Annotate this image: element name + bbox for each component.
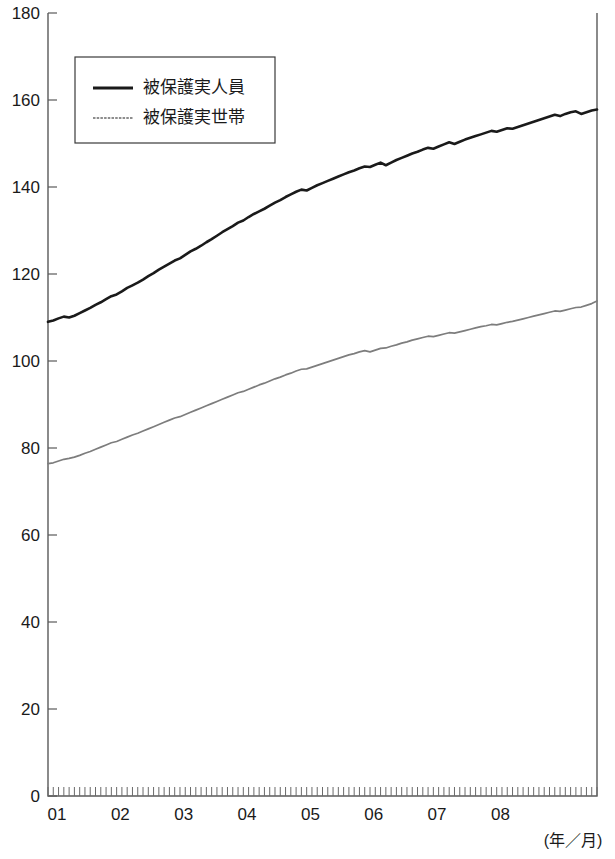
x-tick-label: 01 xyxy=(48,805,67,824)
x-tick-label: 07 xyxy=(428,805,447,824)
y-tick-label: 140 xyxy=(12,178,40,197)
chart-container: 020406080100120140160180 010203040506070… xyxy=(0,0,615,859)
x-tick-label: 05 xyxy=(301,805,320,824)
x-axis-minor-ticks xyxy=(48,787,597,796)
x-tick-label: 04 xyxy=(238,805,257,824)
x-tick-label: 06 xyxy=(364,805,383,824)
y-tick-label: 20 xyxy=(21,700,40,719)
y-tick-label: 160 xyxy=(12,91,40,110)
series-line-secondary xyxy=(48,301,597,464)
legend-label-primary: 被保護実人員 xyxy=(143,78,245,97)
legend-label-secondary: 被保護実世帯 xyxy=(143,108,245,127)
legend-box xyxy=(75,57,275,143)
x-tick-label: 03 xyxy=(174,805,193,824)
series-layer xyxy=(48,110,597,464)
y-axis-tick-labels: 020406080100120140160180 xyxy=(12,4,40,806)
x-tick-label: 02 xyxy=(111,805,130,824)
y-tick-label: 0 xyxy=(31,787,40,806)
y-tick-label: 40 xyxy=(21,613,40,632)
legend: 被保護実人員 被保護実世帯 xyxy=(75,57,275,143)
y-tick-label: 60 xyxy=(21,526,40,545)
y-axis-ticks xyxy=(48,13,57,796)
line-chart: 020406080100120140160180 010203040506070… xyxy=(0,0,615,859)
y-tick-label: 100 xyxy=(12,352,40,371)
x-axis-caption: (年／月) xyxy=(544,832,603,849)
y-tick-label: 120 xyxy=(12,265,40,284)
x-tick-label: 08 xyxy=(491,805,510,824)
y-tick-label: 80 xyxy=(21,439,40,458)
x-axis-tick-labels: 0102030405060708 xyxy=(48,805,510,824)
y-tick-label: 180 xyxy=(12,4,40,23)
